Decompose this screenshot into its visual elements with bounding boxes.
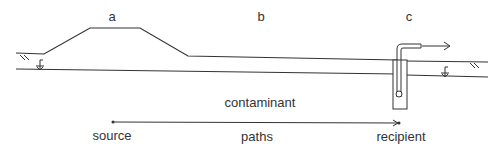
ground-surface-line-right — [406, 61, 488, 62]
ground-surface-line — [16, 28, 398, 60]
zone-label-c: c — [406, 9, 413, 24]
recipient-point — [398, 122, 401, 125]
contaminant-path-diagram: a b c contaminant source paths recipient — [0, 0, 503, 152]
groundwater-table-line — [16, 69, 398, 74]
ground-hatch-icon-left — [20, 55, 29, 60]
ground-hatch-icon-right — [470, 63, 479, 68]
zone-label-b: b — [257, 9, 264, 24]
recipient-label: recipient — [376, 129, 426, 144]
well-casing — [393, 60, 407, 109]
pump-pipe — [397, 44, 421, 97]
zone-label-a: a — [108, 9, 116, 24]
paths-label: paths — [241, 129, 273, 144]
contaminant-label: contaminant — [225, 95, 296, 110]
well-screen-icon — [396, 91, 402, 97]
source-label: source — [92, 128, 131, 143]
path-line — [113, 122, 398, 123]
discharge-arrow-icon — [422, 42, 450, 50]
water-table-icon-left — [36, 60, 44, 70]
